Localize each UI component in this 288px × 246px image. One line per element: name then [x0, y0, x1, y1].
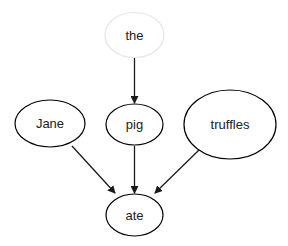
nodes: theJanepigtrufflesate [15, 13, 276, 237]
edge-truffles-to-ate [155, 150, 199, 193]
node-label: truffles [211, 117, 250, 132]
dependency-graph: theJanepigtrufflesate [0, 0, 288, 246]
node-pig: pig [106, 104, 163, 145]
node-jane: Jane [15, 100, 85, 147]
node-label: Jane [36, 116, 64, 131]
edge-jane-to-ate [72, 146, 115, 193]
node-label: ate [125, 208, 143, 223]
node-label: the [125, 28, 143, 43]
node-truffles: truffles [184, 90, 276, 159]
node-the: the [105, 13, 164, 58]
node-ate: ate [106, 194, 163, 236]
node-label: pig [126, 117, 143, 132]
